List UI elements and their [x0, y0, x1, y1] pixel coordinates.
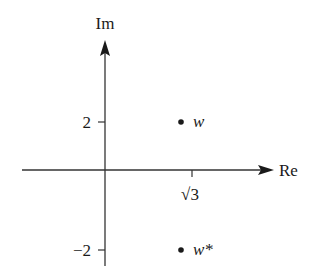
x-tick-label-sqrt3: √3 — [181, 185, 199, 204]
point-w — [178, 119, 184, 125]
y-tick-label-neg2: −2 — [73, 241, 91, 260]
complex-plane-diagram: Im Re 2 −2 √3 w w* — [0, 0, 314, 274]
point-w-conjugate-label: w* — [193, 240, 213, 259]
point-w-label: w — [193, 112, 205, 131]
point-w-conjugate — [178, 247, 184, 253]
real-axis-label: Re — [279, 161, 298, 180]
y-tick-label-2: 2 — [83, 113, 92, 132]
imaginary-axis-label: Im — [96, 14, 115, 33]
